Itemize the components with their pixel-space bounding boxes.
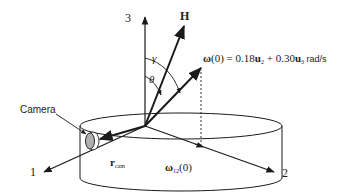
rcam-label: rcam xyxy=(110,156,125,169)
theta-label: θ xyxy=(149,73,155,85)
H-label: H xyxy=(180,9,190,23)
cylinder-bottom-arc xyxy=(80,178,282,191)
omega12-label: ω12(0) xyxy=(165,161,192,174)
axis-2-label: 2 xyxy=(282,166,288,180)
omega-equation: ω(0) = 0.18u2 + 0.30u3 rad/s xyxy=(203,52,327,65)
gamma-label: γ xyxy=(152,52,157,64)
camera-icon xyxy=(86,132,100,150)
camera-label: Camera xyxy=(20,104,56,115)
rigid-body-diagram: Camera 3 1 2 H γ θ ω(0) = 0.18u2 + 0.30u… xyxy=(0,0,360,194)
axis-3-label: 3 xyxy=(125,11,131,25)
cylinder xyxy=(80,113,282,191)
axis-1-label: 1 xyxy=(30,165,36,179)
omega12-arrowhead xyxy=(195,144,203,147)
